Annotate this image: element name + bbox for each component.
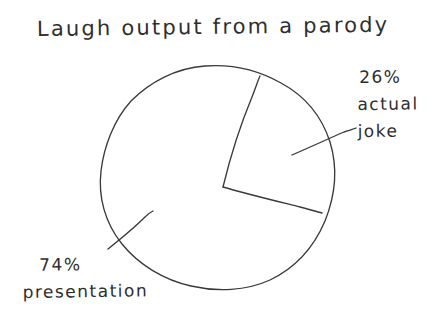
leader-line-presentation [108,211,153,249]
pie-radius-right [223,187,322,213]
slice-name-actual-joke-line1: actual [357,90,419,118]
leader-line-joke [292,128,356,155]
slice-value-presentation: 74% [22,250,148,279]
chart-canvas: Laugh output from a parody 26% actual jo… [0,0,444,320]
slice-label-actual-joke: 26% actual joke [357,63,419,145]
pie-radius-upper [223,76,260,187]
slice-name-actual-joke-line2: joke [357,117,419,145]
slice-label-presentation: 74% presentation [22,250,148,306]
slice-value-actual-joke: 26% [357,63,419,91]
chart-title: Laugh output from a parody [37,13,390,41]
slice-name-presentation: presentation [22,277,148,306]
